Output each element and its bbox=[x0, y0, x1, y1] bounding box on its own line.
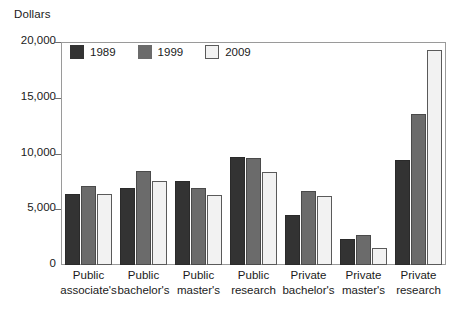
bar[interactable] bbox=[356, 235, 371, 265]
bar[interactable] bbox=[285, 215, 300, 265]
bar[interactable] bbox=[395, 160, 410, 265]
y-axis-tick-label: 10,000 bbox=[2, 146, 56, 158]
y-axis-tick-mark bbox=[55, 98, 61, 99]
bar-group bbox=[336, 42, 391, 265]
bar-group bbox=[226, 42, 281, 265]
legend-swatch-icon bbox=[70, 45, 84, 59]
bar-group bbox=[281, 42, 336, 265]
y-axis-tick-label: 0 bbox=[2, 257, 56, 269]
legend-item-1989[interactable]: 1989 bbox=[70, 45, 116, 59]
y-axis-tick-mark bbox=[55, 209, 61, 210]
legend-swatch-icon bbox=[138, 45, 152, 59]
bar[interactable] bbox=[411, 114, 426, 265]
bar[interactable] bbox=[340, 239, 355, 265]
legend-label: 1989 bbox=[90, 46, 116, 58]
bars-layer bbox=[61, 42, 446, 265]
bar[interactable] bbox=[175, 181, 190, 265]
bar[interactable] bbox=[262, 172, 277, 265]
x-label-line-1: Private bbox=[385, 268, 452, 283]
bar[interactable] bbox=[136, 171, 151, 265]
bar[interactable] bbox=[372, 248, 387, 265]
y-axis-tick-label: 20,000 bbox=[2, 34, 56, 46]
x-axis-labels: Publicassociate'sPublicbachelor'sPublicm… bbox=[61, 268, 446, 314]
bar[interactable] bbox=[97, 194, 112, 265]
bar[interactable] bbox=[120, 188, 135, 265]
bar-group bbox=[61, 42, 116, 265]
legend-label: 2009 bbox=[225, 46, 251, 58]
bar[interactable] bbox=[301, 191, 316, 265]
bar[interactable] bbox=[152, 181, 167, 265]
bar-chart: Dollars 05,00010,00015,00020,000 1989199… bbox=[0, 0, 466, 317]
bar[interactable] bbox=[427, 50, 442, 265]
legend-swatch-icon bbox=[205, 45, 219, 59]
bar[interactable] bbox=[207, 195, 222, 265]
bar-group bbox=[391, 42, 446, 265]
x-label-line-2: research bbox=[385, 283, 452, 298]
legend: 198919992009 bbox=[70, 45, 273, 59]
bar-group bbox=[116, 42, 171, 265]
y-axis-tick-mark bbox=[55, 42, 61, 43]
legend-label: 1999 bbox=[158, 46, 184, 58]
y-axis-tick-label: 5,000 bbox=[2, 201, 56, 213]
bar[interactable] bbox=[191, 188, 206, 265]
bar[interactable] bbox=[81, 186, 96, 265]
y-axis-tick-label: 15,000 bbox=[2, 90, 56, 102]
bar-group bbox=[171, 42, 226, 265]
bar[interactable] bbox=[230, 157, 245, 265]
bar[interactable] bbox=[246, 158, 261, 265]
bar[interactable] bbox=[65, 194, 80, 265]
legend-item-1999[interactable]: 1999 bbox=[138, 45, 184, 59]
legend-item-2009[interactable]: 2009 bbox=[205, 45, 251, 59]
y-axis-tick-mark bbox=[55, 154, 61, 155]
x-axis-category-label: Privateresearch bbox=[385, 268, 452, 297]
bar[interactable] bbox=[317, 196, 332, 265]
y-axis-labels: 05,00010,00015,00020,000 bbox=[0, 0, 56, 317]
